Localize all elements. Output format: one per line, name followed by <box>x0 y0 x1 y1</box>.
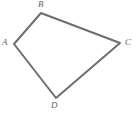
geometry-figure: A B C D <box>0 0 139 118</box>
quadrilateral-abcd-svg <box>0 0 139 118</box>
vertex-label-d: D <box>51 101 58 110</box>
vertex-label-b: B <box>38 0 44 9</box>
vertex-label-a: A <box>2 38 8 47</box>
quadrilateral-outline <box>14 13 120 98</box>
vertex-label-c: C <box>125 38 131 47</box>
